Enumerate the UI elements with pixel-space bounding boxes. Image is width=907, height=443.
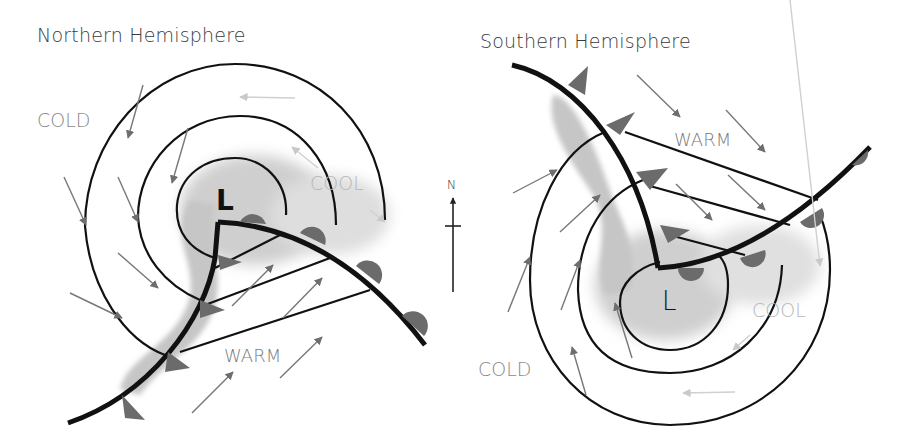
northern-panel: L COLD COOL WARM — [37, 64, 428, 423]
cool-air-label: COOL — [752, 299, 806, 321]
low-pressure-label: L — [662, 286, 677, 316]
low-pressure-label: L — [216, 184, 234, 217]
north-arrow: N — [445, 178, 461, 292]
cold-air-label: COLD — [37, 109, 90, 131]
cool-air-label: COOL — [310, 172, 364, 194]
north-label: N — [447, 178, 456, 192]
cold-front — [68, 222, 242, 423]
cold-air-label: COLD — [478, 358, 531, 380]
warm-air-label: WARM — [674, 129, 731, 150]
warm-air-label: WARM — [224, 345, 281, 366]
cyclone-diagram: L COLD COOL WARM N — [0, 0, 907, 443]
southern-panel: L COLD COOL WARM — [478, 0, 870, 425]
